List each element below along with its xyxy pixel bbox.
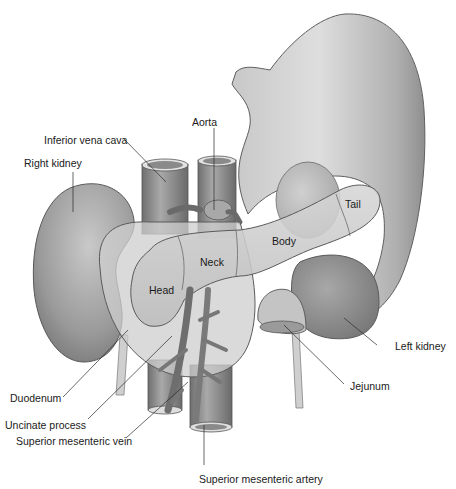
label-pancreas-neck: Neck bbox=[200, 256, 224, 268]
label-duodenum: Duodenum bbox=[10, 392, 61, 404]
label-left-kidney: Left kidney bbox=[395, 340, 446, 352]
label-pancreas-head: Head bbox=[149, 284, 174, 296]
right-ureter bbox=[116, 335, 128, 395]
label-aorta: Aorta bbox=[192, 116, 217, 128]
label-pancreas-tail: Tail bbox=[345, 198, 361, 210]
label-jejunum: Jejunum bbox=[350, 380, 390, 392]
label-inferior-vena-cava: Inferior vena cava bbox=[44, 134, 127, 146]
label-superior-mesenteric-vein: Superior mesenteric vein bbox=[16, 435, 132, 447]
label-right-kidney: Right kidney bbox=[24, 157, 82, 169]
pancreas-anatomy-illustration bbox=[0, 0, 456, 489]
label-superior-mesenteric-artery: Superior mesenteric artery bbox=[199, 473, 323, 485]
label-uncinate-process: Uncinate process bbox=[5, 419, 86, 431]
label-pancreas-body: Body bbox=[272, 235, 296, 247]
